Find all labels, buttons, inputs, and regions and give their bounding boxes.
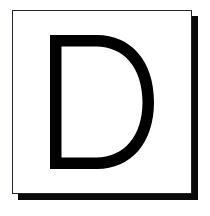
letter-tile-canvas: D [0,0,210,216]
tile-card-face[interactable] [12,10,192,194]
